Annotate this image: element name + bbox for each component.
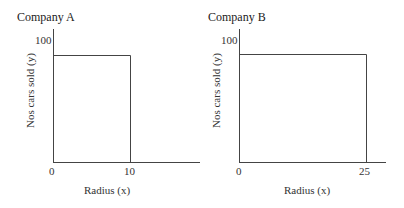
chart-a-axes: [53, 29, 200, 163]
chart-b-series-line: [240, 55, 367, 163]
charts-canvas: [0, 0, 404, 208]
chart-a-series-line: [54, 56, 131, 163]
chart-b-axes: [239, 29, 386, 163]
